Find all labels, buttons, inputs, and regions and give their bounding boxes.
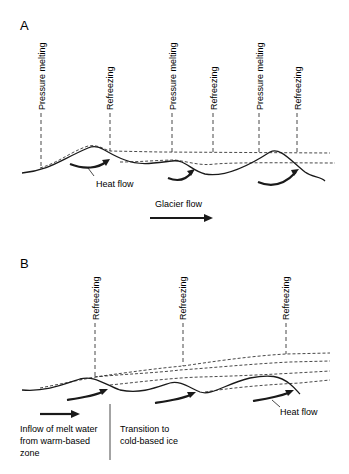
heat-flow-leader-a [88,168,94,176]
transition-label-line1: Transition to [120,424,169,434]
heat-flow-arrows-b [67,392,288,403]
label-refreezing-3: Refreezing [293,66,303,110]
label-pressure-melting-3: Pressure melting [255,42,265,110]
label-refreezing-b3: Refreezing [281,276,291,320]
glacier-flow-arrowhead [204,214,213,222]
leader-lines-a [41,113,297,168]
label-refreezing-b2: Refreezing [178,276,188,320]
isotherm-1-b [40,353,330,388]
inflow-label-line1: Inflow of melt water [20,424,98,434]
label-pressure-melting-2: Pressure melting [168,42,178,110]
heat-flow-label-b: Heat flow [280,407,318,417]
inflow-label-line2: from warm-based [20,436,90,446]
isotherm-2-b [95,361,330,377]
glacier-bed-b [22,376,300,394]
isotherm-4-b [205,380,330,392]
label-refreezing-b1: Refreezing [91,276,101,320]
label-pressure-melting-1: Pressure melting [37,42,47,110]
transition-label-line2: cold-based ice [120,436,178,446]
label-refreezing-2: Refreezing [209,66,219,110]
label-refreezing-1: Refreezing [105,66,115,110]
glacier-flow-label: Glacier flow [155,199,203,209]
panel-a-label: A [20,18,29,33]
heat-flow-label-a: Heat flow [96,179,134,189]
glacier-diagram: A Pressure melting Refreezing Pressure m… [0,0,349,474]
inflow-label-line3: zone [20,448,40,458]
isotherm-lower-a [120,160,335,165]
inflow-arrowhead [71,410,80,418]
glacier-bed-a [22,147,325,181]
panel-b-label: B [20,256,29,271]
heat-flow-leader-b [272,400,280,407]
